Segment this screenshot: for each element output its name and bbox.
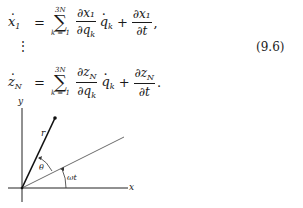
particle-dot [53,116,57,120]
radius-vector [22,118,55,188]
theta-arrowhead [38,156,42,160]
x-axis-label: x [129,182,134,192]
origin-dot [21,187,24,190]
radius-label: r [41,128,45,138]
rotating-frame-diagram [0,0,303,208]
omega-t-label: ωt [67,173,77,182]
y-axis-label: y [18,96,23,106]
omega-t-arc [62,169,66,188]
theta-label: θ [39,163,44,172]
